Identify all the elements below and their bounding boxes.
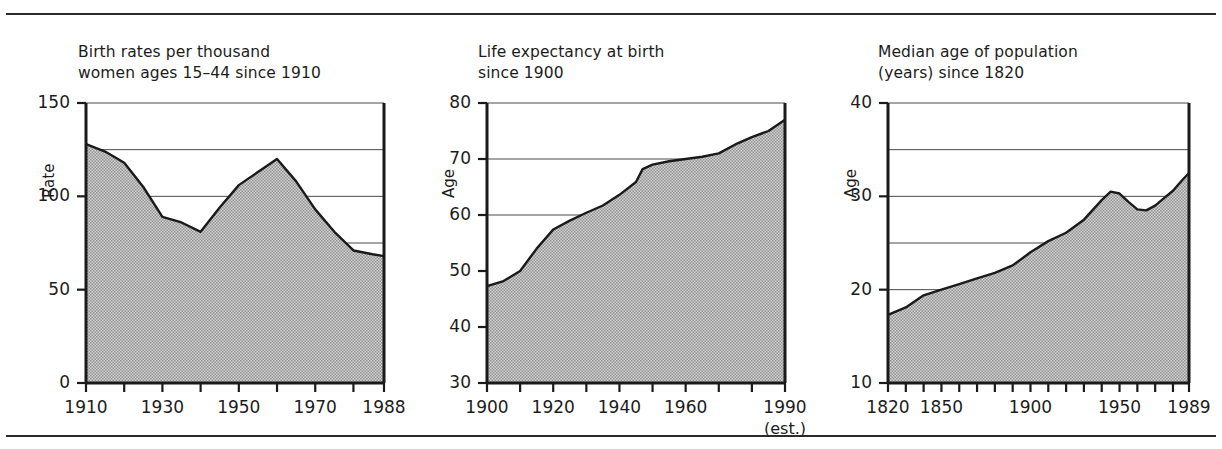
area-fill xyxy=(888,173,1189,383)
chart-panel-life-expectancy: Life expectancy at birth since 1900 3040… xyxy=(400,0,808,449)
plot-area-birth-rates: 05010015019101930195019701988Rate xyxy=(0,0,408,449)
y-tick-label: 10 xyxy=(810,372,872,392)
y-tick-label: 70 xyxy=(409,148,471,168)
y-tick-label: 20 xyxy=(810,279,872,299)
y-tick-label: 30 xyxy=(409,372,471,392)
x-tick-label: 1930 xyxy=(122,397,202,417)
y-tick-label: 40 xyxy=(409,316,471,336)
y-tick-label: 50 xyxy=(8,279,70,299)
x-tick-label: 1950 xyxy=(199,397,279,417)
y-tick-label: 50 xyxy=(409,260,471,280)
y-tick-label: 60 xyxy=(409,204,471,224)
plot-area-median-age: 1020304018201850190019501989Age xyxy=(800,0,1208,449)
y-tick-label: 40 xyxy=(810,92,872,112)
x-tick-label: 1900 xyxy=(990,397,1070,417)
y-tick-label: 0 xyxy=(8,372,70,392)
plot-area-life-expectancy: 30405060708019001920194019601990(est.)Ag… xyxy=(400,0,808,449)
x-tick-label: 1989 xyxy=(1149,397,1222,417)
y-axis-title: Rate xyxy=(40,164,58,198)
y-axis-title: Age xyxy=(440,169,458,198)
y-axis-title: Age xyxy=(842,169,860,198)
chart-panel-median-age: Median age of population (years) since 1… xyxy=(800,0,1208,449)
y-tick-label: 30 xyxy=(810,185,872,205)
x-tick-label: 1960 xyxy=(646,397,726,417)
chart-panel-birth-rates: Birth rates per thousand women ages 15–4… xyxy=(0,0,408,449)
x-tick-label: 1910 xyxy=(46,397,126,417)
x-tick-label: 1950 xyxy=(1080,397,1160,417)
y-tick-label: 80 xyxy=(409,92,471,112)
y-tick-label: 100 xyxy=(8,185,70,205)
area-fill xyxy=(86,144,384,383)
y-tick-label: 150 xyxy=(8,92,70,112)
x-tick-label: 1850 xyxy=(901,397,981,417)
